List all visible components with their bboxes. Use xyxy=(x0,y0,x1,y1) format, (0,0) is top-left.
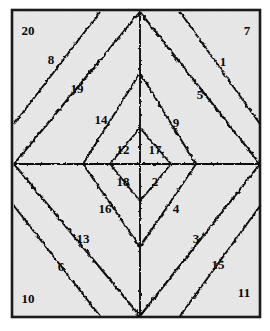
region-label: 12 xyxy=(117,143,130,156)
region-label: 18 xyxy=(117,175,130,188)
region-label: 2 xyxy=(152,175,159,188)
diagram-canvas: 20 8 19 14 12 7 1 5 9 17 18 16 13 6 10 2… xyxy=(0,0,270,331)
region-label: 8 xyxy=(48,53,55,66)
region-label: 4 xyxy=(173,202,180,215)
region-label: 14 xyxy=(95,113,108,126)
region-label: 9 xyxy=(173,116,180,129)
region-label: 6 xyxy=(58,260,65,273)
region-label: 19 xyxy=(71,82,84,95)
diamond-subdivision-svg xyxy=(0,0,270,331)
region-label: 15 xyxy=(212,258,225,271)
region-label: 16 xyxy=(99,202,112,215)
region-label: 3 xyxy=(193,232,200,245)
region-label: 7 xyxy=(244,24,251,37)
region-label: 11 xyxy=(238,286,250,299)
region-label: 5 xyxy=(197,88,204,101)
region-label: 1 xyxy=(220,55,227,68)
region-label: 10 xyxy=(22,292,35,305)
region-label: 20 xyxy=(22,24,35,37)
region-label: 17 xyxy=(149,143,162,156)
region-label: 13 xyxy=(77,232,90,245)
